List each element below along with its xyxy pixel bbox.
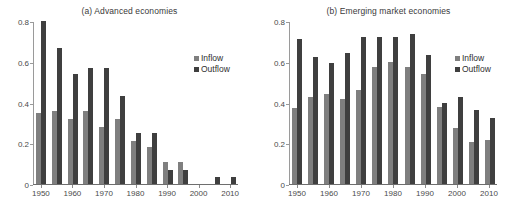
x-axis-tick-label: 1990 <box>158 189 176 198</box>
x-axis-tick-mark <box>167 185 168 188</box>
bar-outflow <box>104 68 109 184</box>
x-axis-tick-label: 1960 <box>64 189 82 198</box>
panel-a-bar-groups <box>33 22 238 184</box>
bar-outflow <box>345 53 350 184</box>
bar-group <box>388 22 398 184</box>
y-axis-tick-label: 0.4 <box>274 99 285 108</box>
bar-group <box>292 22 302 184</box>
bar-group <box>356 22 366 184</box>
x-axis-tick-mark <box>457 185 458 188</box>
x-axis-tick-mark <box>104 185 105 188</box>
bar-group <box>115 22 125 184</box>
bar-outflow <box>183 170 188 184</box>
bar-group <box>324 22 334 184</box>
x-axis-tick-label: 1970 <box>352 189 370 198</box>
bar-outflow <box>426 55 431 184</box>
panel-b-x-ticks: 1950196019701980199020002010 <box>289 185 497 203</box>
y-axis-tick-label: 0 <box>25 181 29 190</box>
bar-outflow <box>329 63 334 184</box>
x-axis-tick-mark <box>393 185 394 188</box>
x-axis-tick-label: 1950 <box>32 189 50 198</box>
bar-group <box>226 22 236 184</box>
bar-outflow <box>393 37 398 184</box>
x-axis-tick-label: 2000 <box>448 189 466 198</box>
x-axis-tick-mark <box>297 185 298 188</box>
bar-outflow <box>41 21 46 184</box>
x-axis-tick-mark <box>41 185 42 188</box>
bar-outflow <box>458 97 463 184</box>
x-axis-tick-mark <box>329 185 330 188</box>
bar-group <box>194 22 204 184</box>
bar-group <box>147 22 157 184</box>
bar-group <box>36 22 46 184</box>
bar-outflow <box>377 37 382 184</box>
legend-swatch-inflow-icon <box>194 56 199 61</box>
x-axis-tick-mark <box>361 185 362 188</box>
bar-outflow <box>442 103 447 185</box>
panel-a-title: (a) Advanced economies <box>0 6 259 16</box>
bar-group <box>340 22 350 184</box>
bar-group <box>210 22 220 184</box>
y-axis-tick-label: 0.2 <box>274 140 285 149</box>
bar-outflow <box>313 57 318 184</box>
bar-outflow <box>120 96 125 184</box>
y-axis-tick-label: 0.8 <box>274 18 285 27</box>
bar-group <box>405 22 415 184</box>
legend-entry-outflow: Outflow <box>194 64 230 75</box>
bar-outflow <box>136 133 141 184</box>
bar-outflow <box>168 170 173 184</box>
bar-outflow <box>73 74 78 184</box>
bar-outflow <box>361 37 366 184</box>
bar-group <box>421 22 431 184</box>
panel-emerging-market-economies: (b) Emerging market economies 00.20.40.6… <box>259 0 518 221</box>
y-axis-tick-label: 0.2 <box>18 140 29 149</box>
legend-swatch-inflow-icon <box>455 56 460 61</box>
panel-a-plot-area: 00.20.40.60.8 19501960197019801990200020… <box>33 22 238 185</box>
y-axis-tick-label: 0 <box>281 181 285 190</box>
panel-b-plot-area: 00.20.40.60.8 19501960197019801990200020… <box>289 22 497 185</box>
x-axis-tick-mark <box>199 185 200 188</box>
panel-b-title: (b) Emerging market economies <box>259 6 518 16</box>
bar-outflow <box>88 68 93 184</box>
x-axis-tick-label: 1980 <box>384 189 402 198</box>
bar-group <box>163 22 173 184</box>
panel-a-x-ticks: 1950196019701980199020002010 <box>33 185 238 203</box>
bar-outflow <box>152 133 157 184</box>
bar-group <box>99 22 109 184</box>
bar-group <box>68 22 78 184</box>
legend-label-inflow: Inflow <box>462 53 484 64</box>
x-axis-tick-label: 1990 <box>416 189 434 198</box>
panel-advanced-economies: (a) Advanced economies 00.20.40.60.8 195… <box>0 0 259 221</box>
bar-outflow <box>410 34 415 184</box>
panel-a-legend: Inflow Outflow <box>194 53 230 75</box>
y-axis-tick-label: 0.8 <box>18 18 29 27</box>
x-axis-tick-label: 2010 <box>480 189 498 198</box>
bar-group <box>485 22 495 184</box>
x-axis-tick-label: 1970 <box>95 189 113 198</box>
legend-swatch-outflow-icon <box>194 67 199 72</box>
y-axis-tick-label: 0.4 <box>18 99 29 108</box>
bar-group <box>437 22 447 184</box>
bar-group <box>83 22 93 184</box>
bar-outflow <box>490 118 495 184</box>
bar-group <box>52 22 62 184</box>
x-axis-tick-label: 1980 <box>127 189 145 198</box>
bar-outflow <box>474 110 479 184</box>
y-axis-tick-label: 0.6 <box>18 58 29 67</box>
legend-swatch-outflow-icon <box>455 67 460 72</box>
bar-outflow <box>231 177 236 184</box>
bar-group <box>469 22 479 184</box>
y-axis-tick-label: 0.6 <box>274 58 285 67</box>
x-axis-tick-mark <box>72 185 73 188</box>
bar-group <box>372 22 382 184</box>
bar-group <box>308 22 318 184</box>
legend-label-outflow: Outflow <box>201 64 230 75</box>
bar-outflow <box>57 48 62 185</box>
legend-label-inflow: Inflow <box>201 53 223 64</box>
legend-entry-inflow: Inflow <box>194 53 230 64</box>
x-axis-tick-mark <box>489 185 490 188</box>
legend-entry-inflow: Inflow <box>455 53 491 64</box>
bar-outflow <box>215 177 220 184</box>
figure-container: (a) Advanced economies 00.20.40.60.8 195… <box>0 0 518 221</box>
x-axis-tick-label: 1950 <box>288 189 306 198</box>
